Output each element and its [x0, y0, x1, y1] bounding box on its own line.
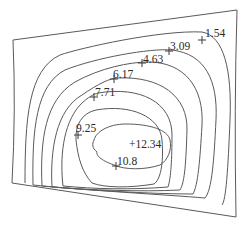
contour-label-6.17: 6.17	[110, 68, 133, 83]
svg-text:7.71: 7.71	[95, 86, 115, 98]
contour-label-9.25: 9.25	[74, 122, 96, 139]
contour-label-4.63: 4.63	[138, 53, 163, 67]
contour-label-1.54: 1.54	[198, 27, 225, 44]
svg-text:3.09: 3.09	[170, 40, 190, 52]
svg-text:4.63: 4.63	[143, 53, 163, 65]
contour-plot: 1.54 3.09 4.63 6.17 7.71 9.25 10.8 +12.3…	[0, 0, 251, 227]
contour-label-7.71: 7.71	[90, 86, 115, 101]
svg-text:+12.34: +12.34	[129, 138, 162, 150]
svg-text:6.17: 6.17	[113, 68, 133, 80]
svg-text:1.54: 1.54	[205, 27, 225, 39]
svg-text:9.25: 9.25	[76, 122, 96, 134]
contour-line-1.54	[25, 32, 230, 205]
peak-label: +12.34	[129, 138, 162, 150]
contour-line-4.63	[42, 62, 203, 194]
svg-text:10.8: 10.8	[117, 155, 137, 167]
contour-label-3.09: 3.09	[165, 40, 190, 55]
